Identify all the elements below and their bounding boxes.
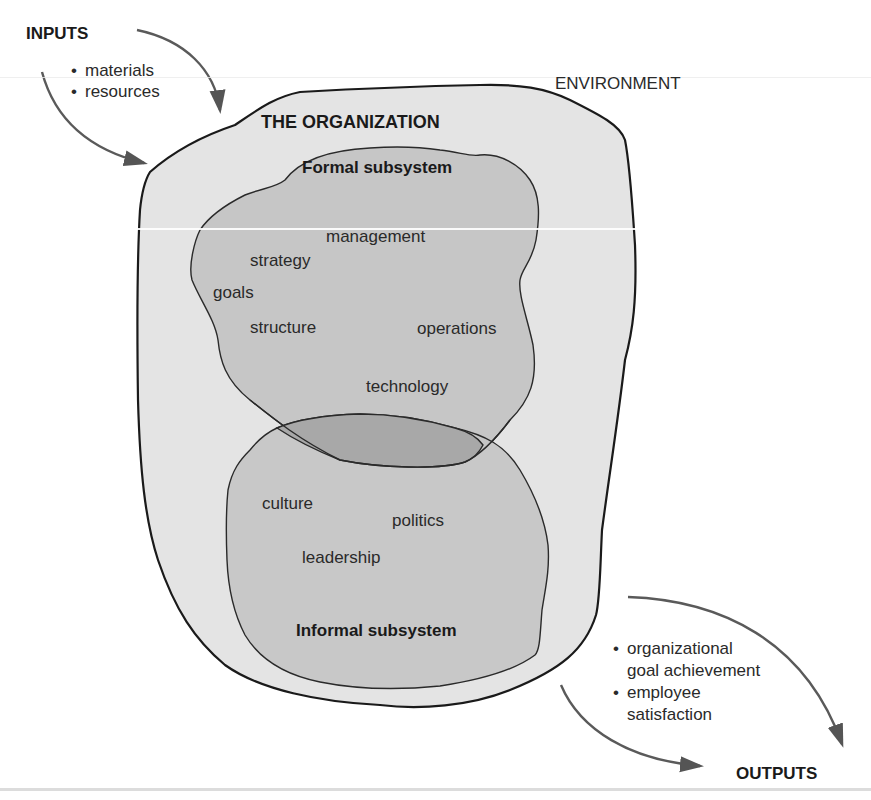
output-item-line: satisfaction: [627, 705, 712, 724]
output-item-line: organizational: [627, 639, 733, 658]
informal-item-culture: culture: [262, 494, 313, 514]
formal-item-operations: operations: [417, 319, 496, 339]
organization-label: THE ORGANIZATION: [261, 112, 440, 132]
outputs-heading: OUTPUTS: [736, 764, 817, 784]
inputs-list: materials resources: [71, 60, 160, 102]
formal-item-technology: technology: [366, 377, 448, 397]
scan-artifact-line: [0, 228, 871, 230]
formal-item-strategy: strategy: [250, 251, 310, 271]
environment-label: ENVIRONMENT: [555, 74, 681, 94]
formal-item-goals: goals: [213, 283, 254, 303]
output-item-goal-achievement: organizational goal achievement: [613, 638, 760, 682]
output-item-employee-satisfaction: employee satisfaction: [613, 682, 760, 726]
inputs-heading: INPUTS: [26, 24, 88, 44]
output-item-line: employee: [627, 683, 701, 702]
bottom-rule: [0, 788, 871, 791]
input-item-resources: resources: [71, 81, 160, 102]
output-item-line: goal achievement: [627, 661, 760, 680]
formal-item-management: management: [326, 227, 425, 247]
informal-item-leadership: leadership: [302, 548, 380, 568]
informal-subsystem-label: Informal subsystem: [296, 621, 457, 641]
formal-subsystem-label: Formal subsystem: [302, 158, 452, 178]
informal-item-politics: politics: [392, 511, 444, 531]
input-item-materials: materials: [71, 60, 160, 81]
formal-item-structure: structure: [250, 318, 316, 338]
outputs-list: organizational goal achievement employee…: [613, 638, 760, 726]
